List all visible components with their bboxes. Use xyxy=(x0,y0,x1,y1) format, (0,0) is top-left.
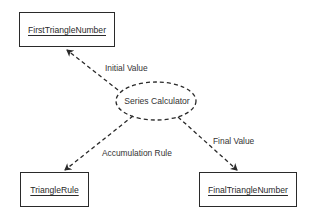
edge-label-initial-value: Initial Value xyxy=(105,63,148,73)
node-triangle-rule: TriangleRule xyxy=(20,172,89,207)
node-final-triangle-number: FinalTriangleNumber xyxy=(199,172,297,207)
edge-accumulation-rule xyxy=(65,116,133,170)
edge-label-accumulation-rule: Accumulation Rule xyxy=(102,148,172,158)
node-final-triangle-number-label: FinalTriangleNumber xyxy=(208,185,288,195)
node-triangle-rule-label: TriangleRule xyxy=(30,185,78,195)
node-series-calculator-label: Series Calculator xyxy=(124,96,189,106)
node-first-triangle-number: FirstTriangleNumber xyxy=(19,12,115,47)
edge-label-final-value: Final Value xyxy=(213,136,254,146)
node-first-triangle-number-label: FirstTriangleNumber xyxy=(28,25,106,35)
